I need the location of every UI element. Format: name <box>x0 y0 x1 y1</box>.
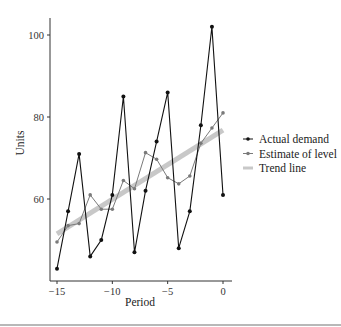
estimate-point <box>199 141 203 145</box>
actual-demand-point <box>221 193 225 197</box>
estimate-point <box>99 207 103 211</box>
actual-demand-point <box>199 123 203 127</box>
legend-marker <box>246 152 250 156</box>
legend: Actual demandEstimate of levelTrend line <box>243 133 337 174</box>
estimate-point <box>188 174 192 178</box>
estimate-point <box>166 176 170 180</box>
legend-label: Trend line <box>259 162 306 174</box>
actual-demand-point <box>144 189 148 193</box>
estimate-point <box>155 157 159 161</box>
actual-demand-point <box>77 152 81 156</box>
x-tick-label: −15 <box>49 286 65 297</box>
actual-demand-point <box>188 209 192 213</box>
legend-item: Trend line <box>243 162 306 174</box>
x-tick-label: −5 <box>162 286 173 297</box>
y-tick-label: 100 <box>28 30 44 41</box>
actual-demand-point <box>55 267 59 271</box>
estimate-point <box>122 179 126 183</box>
actual-demand-point <box>121 95 125 99</box>
x-axis-ticks: −15−10−50 <box>49 281 226 297</box>
bottom-divider <box>0 324 341 326</box>
legend-marker <box>246 137 250 141</box>
actual-demand-point <box>99 238 103 242</box>
x-axis-title: Period <box>125 296 155 308</box>
estimate-point <box>133 187 137 191</box>
actual-demand-line <box>57 27 223 269</box>
y-axis-ticks: 6080100 <box>28 30 50 205</box>
actual-demand-point <box>88 254 92 258</box>
estimate-point <box>221 111 225 115</box>
estimate-point <box>210 126 214 130</box>
estimate-point <box>144 151 148 155</box>
actual-demand-point <box>132 250 136 254</box>
legend-item: Estimate of level <box>243 148 337 160</box>
actual-demand-point <box>210 25 214 29</box>
y-tick-label: 80 <box>34 112 45 123</box>
estimate-point <box>77 222 81 226</box>
x-tick-label: −10 <box>104 286 120 297</box>
x-tick-label: 0 <box>220 286 225 297</box>
estimate-point <box>66 224 70 228</box>
actual-demand-point <box>166 90 170 94</box>
estimate-point <box>177 182 181 186</box>
actual-demand-point <box>177 246 181 250</box>
y-axis-title: Units <box>14 130 26 155</box>
plot-area <box>55 25 225 271</box>
actual-demand-point <box>66 209 70 213</box>
estimate-point <box>55 240 59 244</box>
legend-label: Estimate of level <box>259 148 337 160</box>
estimate-point <box>111 207 115 211</box>
estimate-point <box>88 193 92 197</box>
legend-item: Actual demand <box>243 133 329 145</box>
y-tick-label: 60 <box>34 194 45 205</box>
chart: −15−10−50 6080100 Period Units Actual de… <box>0 0 341 327</box>
legend-label: Actual demand <box>259 133 329 145</box>
actual-demand-point <box>110 193 114 197</box>
actual-demand-point <box>155 140 159 144</box>
